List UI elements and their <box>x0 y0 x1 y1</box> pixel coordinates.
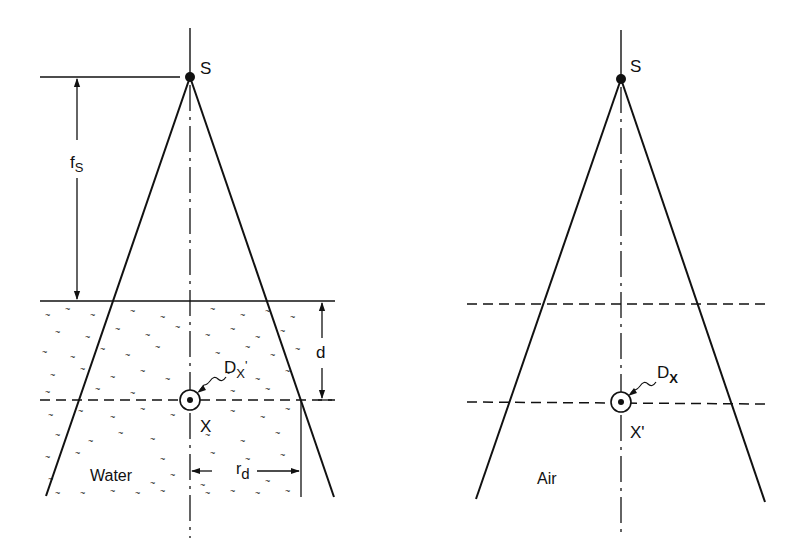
svg-text:~: ~ <box>78 406 83 416</box>
svg-text:~: ~ <box>210 304 215 314</box>
svg-text:~: ~ <box>42 347 47 357</box>
svg-text:~: ~ <box>80 488 85 498</box>
svg-text:~: ~ <box>245 342 250 352</box>
svg-text:~: ~ <box>270 350 275 360</box>
source-point-icon <box>185 72 195 82</box>
svg-text:~: ~ <box>280 450 285 460</box>
dosimeter-dot-icon <box>618 399 624 405</box>
dose-label-dx: DX <box>657 363 678 386</box>
svg-text:~: ~ <box>55 430 60 440</box>
svg-text:~: ~ <box>80 364 85 374</box>
svg-text:~: ~ <box>135 488 140 498</box>
svg-text:~: ~ <box>65 304 70 314</box>
svg-text:~: ~ <box>160 454 165 464</box>
dose-leader-arrowhead <box>197 385 206 393</box>
svg-text:~: ~ <box>275 428 280 438</box>
water-label: Water <box>90 467 133 484</box>
svg-text:~: ~ <box>210 448 215 458</box>
svg-text:~: ~ <box>90 310 95 320</box>
svg-text:~: ~ <box>140 366 145 376</box>
beam-edge-left <box>476 79 621 499</box>
svg-text:~: ~ <box>118 428 123 438</box>
svg-text:~: ~ <box>240 436 245 446</box>
d-label: d <box>316 343 325 362</box>
svg-text:~: ~ <box>100 344 105 354</box>
svg-text:~: ~ <box>45 387 50 397</box>
right-panel-air: S DX X' Air <box>467 30 765 538</box>
svg-text:~: ~ <box>230 386 235 396</box>
svg-text:~: ~ <box>290 312 295 322</box>
svg-text:~: ~ <box>175 322 180 332</box>
svg-text:~: ~ <box>285 486 290 496</box>
svg-text:~: ~ <box>150 478 155 488</box>
svg-text:~: ~ <box>145 330 150 340</box>
svg-text:~: ~ <box>45 452 50 462</box>
air-label: Air <box>537 470 557 487</box>
svg-text:~: ~ <box>255 488 260 498</box>
svg-text:~: ~ <box>140 404 145 414</box>
svg-text:~: ~ <box>205 488 210 498</box>
svg-text:~: ~ <box>85 332 90 342</box>
svg-text:~: ~ <box>130 388 135 398</box>
svg-text:~: ~ <box>255 374 260 384</box>
svg-text:~: ~ <box>260 412 265 422</box>
svg-text:~: ~ <box>150 434 155 444</box>
svg-text:~: ~ <box>110 412 115 422</box>
svg-text:~: ~ <box>160 312 165 322</box>
svg-text:~: ~ <box>265 476 270 486</box>
point-x-prime-label: X' <box>630 423 645 442</box>
source-label: S <box>630 57 641 76</box>
svg-text:~: ~ <box>70 352 75 362</box>
svg-text:~: ~ <box>285 404 290 414</box>
svg-text:~: ~ <box>130 306 135 316</box>
svg-text:~: ~ <box>295 344 300 354</box>
svg-text:~: ~ <box>88 436 93 446</box>
svg-text:~: ~ <box>280 326 285 336</box>
svg-text:~: ~ <box>170 470 175 480</box>
water-texture: ~~~~~~~~~ ~~~~~~~~~ ~~~~~~~~~ ~~~~~~~~ ~… <box>42 304 300 498</box>
svg-text:~: ~ <box>230 324 235 334</box>
svg-text:~: ~ <box>45 310 50 320</box>
dosimeter-dot-icon <box>187 397 193 403</box>
source-label: S <box>200 59 211 78</box>
svg-text:~: ~ <box>55 488 60 498</box>
svg-text:~: ~ <box>50 370 55 380</box>
beam-edge-right <box>190 77 334 497</box>
svg-text:~: ~ <box>110 372 115 382</box>
svg-text:~: ~ <box>230 406 235 416</box>
svg-text:~: ~ <box>48 410 53 420</box>
left-panel-water: ~~~~~~~~~ ~~~~~~~~~ ~~~~~~~~~ ~~~~~~~~ ~… <box>40 28 335 538</box>
svg-text:~: ~ <box>55 327 60 337</box>
svg-text:~: ~ <box>115 324 120 334</box>
fs-label: fS <box>70 153 84 175</box>
svg-text:~: ~ <box>170 410 175 420</box>
svg-text:~: ~ <box>265 384 270 394</box>
point-x-label: X <box>200 417 211 436</box>
svg-text:~: ~ <box>165 374 170 384</box>
svg-text:~: ~ <box>75 448 80 458</box>
svg-text:~: ~ <box>240 310 245 320</box>
svg-text:~: ~ <box>95 384 100 394</box>
svg-text:~: ~ <box>255 332 260 342</box>
svg-text:~: ~ <box>230 486 235 496</box>
svg-text:~: ~ <box>155 342 160 352</box>
svg-text:~: ~ <box>160 486 165 496</box>
svg-text:~: ~ <box>215 348 220 358</box>
source-point-icon <box>616 74 626 84</box>
diagram-canvas: ~~~~~~~~~ ~~~~~~~~~ ~~~~~~~~~ ~~~~~~~~ ~… <box>0 0 800 555</box>
svg-text:~: ~ <box>245 454 250 464</box>
svg-text:~: ~ <box>110 486 115 496</box>
svg-text:~: ~ <box>205 330 210 340</box>
svg-text:~: ~ <box>125 350 130 360</box>
